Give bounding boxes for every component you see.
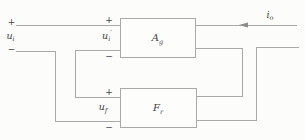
feedback-minus-sign: − <box>105 122 113 132</box>
amp-minus-to-feedback-wire <box>75 50 120 97</box>
feedback-plus-sign: + <box>105 87 113 97</box>
feedback-voltage-label: uf <box>99 101 109 115</box>
amp-output-return-wire <box>195 48 243 97</box>
source-plus-sign: + <box>8 17 16 27</box>
output-current-arrow <box>239 22 248 27</box>
amp-input-minus-sign: − <box>105 51 113 61</box>
output-current-label: io <box>267 9 274 23</box>
source-voltage-label: ui <box>6 30 14 44</box>
feedback-output-wire <box>196 47 299 120</box>
diagram-stage: AgFr+ui−+ui′−+uf−io <box>0 0 305 140</box>
source-minus-sign: − <box>8 44 16 54</box>
amp-input-voltage-label: ui′ <box>102 29 112 43</box>
feedback-block-diagram: AgFr+ui−+ui′−+uf−io <box>0 0 305 140</box>
amp-input-plus-sign: + <box>105 15 113 25</box>
